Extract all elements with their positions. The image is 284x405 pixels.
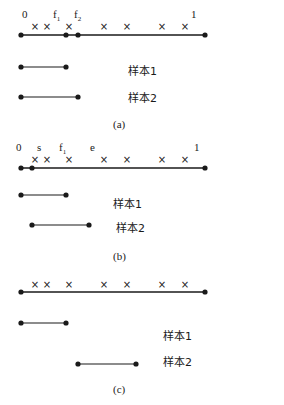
sample-label: 样本2 [116, 221, 145, 235]
sample-point-cross-icon: × [65, 279, 73, 290]
sample-2: 样本2 [18, 91, 157, 105]
segment-start-dot [18, 94, 23, 99]
axis-label: s [37, 141, 41, 153]
sample-point-cross-icon: × [123, 21, 131, 32]
segment-start-dot [29, 222, 34, 227]
sample-point-cross-icon: × [181, 154, 189, 165]
endpoint-dot [202, 165, 207, 170]
endpoint-dot [18, 32, 23, 37]
sample-point-cross-icon: × [123, 279, 131, 290]
axis-label: 0 [22, 8, 28, 20]
diagram-svg: ×××××××0f1f21样本1样本2(a)×××××××0sf1e1样本1样本… [0, 0, 284, 405]
panel-caption: (c) [113, 383, 126, 396]
axis-label: 1 [194, 141, 200, 153]
sample-2: 样本2 [29, 221, 145, 235]
sample-1: 样本1 [18, 64, 157, 78]
sample-1: 样本1 [18, 320, 192, 343]
sample-point-cross-icon: × [31, 21, 39, 32]
segment-end-dot [63, 64, 68, 69]
endpoint-dot [202, 289, 207, 294]
sample-point-cross-icon: × [31, 154, 39, 165]
sample-1: 样本1 [18, 192, 142, 211]
endpoint-dot [18, 289, 23, 294]
panel-b: ×××××××0sf1e1样本1样本2(b) [16, 141, 208, 263]
sample-label: 样本2 [163, 355, 192, 369]
endpoint-dot [202, 32, 207, 37]
segment-end-dot [86, 222, 91, 227]
axis-label: f2 [74, 8, 82, 23]
sample-point-cross-icon: × [158, 279, 166, 290]
segment-start-dot [18, 192, 23, 197]
sample-label: 样本1 [113, 197, 142, 211]
endpoint-dot [18, 165, 23, 170]
sample-point-cross-icon: × [100, 154, 108, 165]
segment-start-dot [75, 361, 80, 366]
sample-point-cross-icon: × [158, 21, 166, 32]
sample-2: 样本2 [75, 355, 192, 369]
endpoint-dot [63, 32, 68, 37]
sample-point-cross-icon: × [100, 21, 108, 32]
axis-label: 1 [191, 8, 197, 20]
sample-label: 样本1 [128, 64, 157, 78]
panel-caption: (b) [113, 250, 126, 263]
sample-point-cross-icon: × [181, 279, 189, 290]
sample-point-cross-icon: × [43, 21, 51, 32]
sample-point-cross-icon: × [43, 154, 51, 165]
segment-end-dot [63, 192, 68, 197]
axis-label: 0 [16, 141, 22, 153]
segment-start-dot [18, 64, 23, 69]
sample-point-cross-icon: × [31, 279, 39, 290]
segment-end-dot [75, 94, 80, 99]
axis-label: e [90, 141, 95, 153]
sampling-diagram: ×××××××0f1f21样本1样本2(a)×××××××0sf1e1样本1样本… [0, 0, 284, 405]
sample-point-cross-icon: × [43, 279, 51, 290]
sample-point-cross-icon: × [65, 21, 73, 32]
sample-point-cross-icon: × [123, 154, 131, 165]
endpoint-dot [29, 165, 34, 170]
sample-point-cross-icon: × [181, 21, 189, 32]
panel-caption: (a) [113, 118, 126, 131]
segment-end-dot [63, 320, 68, 325]
sample-label: 样本1 [163, 329, 192, 343]
panel-c: ×××××××样本1样本2(c) [18, 279, 207, 396]
axis-label: f1 [59, 141, 67, 156]
segment-end-dot [133, 361, 138, 366]
segment-start-dot [18, 320, 23, 325]
endpoint-dot [75, 32, 80, 37]
sample-point-cross-icon: × [100, 279, 108, 290]
sample-label: 样本2 [128, 91, 157, 105]
panel-a: ×××××××0f1f21样本1样本2(a) [18, 8, 207, 131]
axis-label: f1 [53, 8, 61, 23]
sample-point-cross-icon: × [158, 154, 166, 165]
